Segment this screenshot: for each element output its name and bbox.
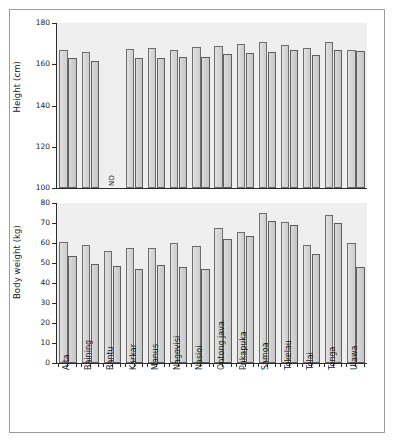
y-tick-label: 60 — [40, 239, 50, 247]
x-tick-mark — [186, 363, 187, 367]
bar-tonga-male — [325, 42, 333, 188]
x-tick-mark — [98, 363, 99, 367]
y-tick-mark — [52, 106, 56, 107]
body-weight-y-axis-label: Body weight (kg) — [12, 225, 22, 299]
y-tick-label: 10 — [40, 339, 50, 347]
y-tick-label: 80 — [40, 199, 50, 207]
bar-ontong-java-male — [214, 46, 222, 188]
x-category-label-tokelau: Tokelau — [285, 340, 293, 370]
x-tick-mark — [324, 363, 325, 367]
bar-karkar-male — [126, 49, 134, 188]
x-category-label-baining: Baining — [85, 340, 93, 370]
x-tick-mark — [319, 363, 320, 367]
x-tick-mark — [191, 363, 192, 367]
x-tick-mark — [258, 363, 259, 367]
x-category-label-karkar: Karkar — [130, 344, 138, 370]
bar-ontong-java-female — [223, 54, 231, 188]
x-tick-mark — [341, 363, 342, 367]
y-tick-label: 40 — [40, 279, 50, 287]
x-tick-mark — [58, 363, 59, 367]
bar-karkar-female — [135, 58, 143, 188]
x-tick-mark — [231, 363, 232, 367]
y-tick-label: 120 — [36, 143, 50, 151]
x-category-label-ontong-java: Ontong java — [218, 321, 226, 370]
bar-tolai-female — [312, 55, 320, 188]
x-category-label-tolai: Tolai — [307, 352, 315, 370]
x-tick-mark — [169, 363, 170, 367]
y-tick-mark — [52, 323, 56, 324]
height-bars-layer: ND — [57, 23, 367, 188]
x-category-label-tonga: Tonga — [329, 347, 337, 370]
body-weight-bars-layer — [57, 203, 367, 363]
y-tick-mark — [52, 23, 56, 24]
height-plot-area: ND — [56, 23, 367, 189]
bar-nagovisi-female — [179, 57, 187, 188]
bar-aita-male — [59, 50, 67, 188]
body-weight-plot-area — [56, 203, 367, 364]
bar-tolai-male — [303, 48, 311, 188]
bar-baining-male — [82, 52, 90, 188]
y-tick-mark — [52, 64, 56, 65]
bar-ulawa-male — [347, 50, 355, 188]
y-tick-label: 160 — [36, 60, 50, 68]
x-tick-mark — [209, 363, 210, 367]
bar-aita-female — [68, 58, 76, 188]
x-category-label-nasioi: Nasioi — [196, 346, 204, 370]
y-tick-label: 180 — [36, 19, 50, 27]
bar-aita-female — [68, 256, 76, 363]
bar-tonga-female — [334, 50, 342, 188]
bar-nasioi-female — [201, 57, 209, 188]
y-tick-mark — [52, 147, 56, 148]
y-tick-mark — [52, 343, 56, 344]
height-panel: ND 100120140160180 Height (cm) — [56, 23, 366, 188]
x-tick-mark — [164, 363, 165, 367]
bar-samoa-female — [268, 52, 276, 188]
x-tick-mark — [142, 363, 143, 367]
y-tick-label: 140 — [36, 102, 50, 110]
x-tick-mark — [236, 363, 237, 367]
x-tick-mark — [297, 363, 298, 367]
figure-root: ND 100120140160180 Height (cm) 010203040… — [0, 0, 396, 444]
x-tick-mark — [120, 363, 121, 367]
bar-samoa-male — [259, 213, 267, 363]
x-tick-mark — [81, 363, 82, 367]
height-y-axis-label: Height (cm) — [12, 61, 22, 113]
bar-tonga-male — [325, 215, 333, 363]
y-tick-label: 20 — [40, 319, 50, 327]
x-tick-mark — [213, 363, 214, 367]
bar-tonga-female — [334, 223, 342, 363]
x-tick-mark — [125, 363, 126, 367]
bar-nasioi-male — [192, 47, 200, 188]
x-tick-mark — [147, 363, 148, 367]
y-tick-label: 50 — [40, 259, 50, 267]
x-tick-mark — [76, 363, 77, 367]
x-category-label-ulawa: Ulawa — [351, 346, 359, 370]
x-tick-mark — [280, 363, 281, 367]
x-category-label-manus: Manus — [152, 344, 160, 370]
y-tick-mark — [52, 243, 56, 244]
x-category-label-aita: Aita — [63, 354, 71, 370]
x-category-label-bantu: Bantu — [107, 346, 115, 370]
x-tick-mark — [364, 363, 365, 367]
bar-manus-female — [157, 58, 165, 188]
x-category-label-nagovisi: Nagovisi — [174, 336, 182, 370]
y-tick-label: 0 — [45, 359, 50, 367]
bar-tolai-male — [303, 245, 311, 363]
y-tick-mark — [52, 263, 56, 264]
bar-baining-female — [91, 61, 99, 188]
bar-tokelau-male — [281, 45, 289, 188]
bar-tolai-female — [312, 254, 320, 363]
bar-tokelau-female — [290, 50, 298, 188]
bar-manus-male — [148, 48, 156, 188]
y-tick-mark — [52, 283, 56, 284]
y-tick-mark — [52, 188, 56, 189]
bar-nagovisi-male — [170, 50, 178, 188]
no-data-label: ND — [108, 175, 116, 186]
x-category-label-pukapuka: Pukapuka — [240, 331, 248, 370]
x-category-label-samoa: Samoa — [262, 342, 270, 370]
y-tick-mark — [52, 303, 56, 304]
y-tick-label: 70 — [40, 219, 50, 227]
y-tick-mark — [52, 223, 56, 224]
x-tick-mark — [103, 363, 104, 367]
bar-ulawa-female — [356, 51, 364, 188]
